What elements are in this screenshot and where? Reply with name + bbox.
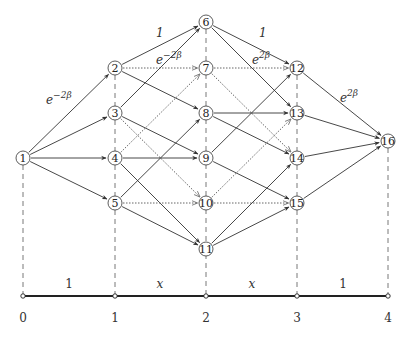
node-label: 1 (20, 152, 27, 165)
node-label: 10 (199, 197, 213, 210)
edge-4-7 (121, 74, 200, 152)
node-label: 11 (199, 243, 213, 256)
edge-15-16 (304, 146, 381, 198)
node-label: 5 (112, 197, 119, 210)
edge-weight-label: e2β (340, 88, 358, 105)
node-4: 4 (108, 151, 122, 165)
node-11: 11 (199, 242, 213, 256)
nodes: 12345678910111213141516 (16, 15, 395, 256)
edge-11-15 (213, 207, 289, 245)
node-label: 12 (290, 62, 304, 75)
lattice-diagram: 12345678910111213141516 e−2β1e−2β1e2βe2β… (0, 0, 408, 339)
edge-13-16 (305, 115, 380, 138)
node-label: 14 (290, 152, 304, 165)
axis-tick-label: 2 (202, 311, 210, 325)
node-label: 3 (112, 107, 119, 120)
edge-1-5 (30, 162, 107, 200)
node-16: 16 (381, 134, 395, 148)
node-1: 1 (16, 151, 30, 165)
node-9: 9 (199, 151, 213, 165)
diagram-svg: 12345678910111213141516 e−2β1e−2β1e2βe2β… (0, 0, 408, 339)
segment-length-label: 1 (339, 277, 347, 291)
node-label: 16 (381, 135, 395, 148)
edge-6-13 (212, 28, 291, 107)
edge-3-9 (122, 117, 198, 154)
node-13: 13 (290, 106, 304, 120)
edge-weight-label: 1 (259, 26, 267, 40)
axis-tick-2 (204, 294, 208, 298)
node-2: 2 (108, 61, 122, 75)
node-14: 14 (290, 151, 304, 165)
axis-tick-3 (295, 294, 299, 298)
edge-8-14 (213, 117, 289, 154)
segment-length-label: 1 (65, 277, 73, 291)
segment-length-label: x (157, 277, 164, 291)
axis-tick-label: 4 (384, 311, 392, 325)
axis-tick-1 (113, 294, 117, 298)
node-label: 2 (112, 62, 119, 75)
node-label: 4 (112, 152, 119, 165)
segment-length-label: x (249, 277, 256, 291)
node-3: 3 (108, 106, 122, 120)
edge-1-3 (30, 117, 107, 155)
edges (29, 26, 381, 246)
axis-tick-label: 0 (19, 311, 27, 325)
node-15: 15 (290, 196, 304, 210)
edge-9-15 (213, 162, 289, 199)
edge-5-11 (122, 207, 198, 245)
axis-tick-0 (21, 294, 25, 298)
node-label: 9 (203, 152, 210, 165)
axis-tick-label: 1 (111, 311, 119, 325)
edge-weight-label: e−2β (156, 50, 182, 67)
node-10: 10 (199, 196, 213, 210)
edge-weight-label: e−2β (46, 90, 72, 107)
node-label: 13 (290, 107, 304, 120)
edge-10-13 (212, 119, 291, 197)
node-12: 12 (290, 61, 304, 75)
node-label: 15 (290, 197, 304, 210)
edge-1-2 (29, 74, 109, 152)
axis-tick-label: 3 (293, 311, 301, 325)
axis-tick-4 (386, 294, 390, 298)
node-label: 6 (203, 16, 210, 29)
node-label: 7 (203, 62, 210, 75)
node-7: 7 (199, 61, 213, 75)
edge-weight-label: e2β (252, 50, 270, 67)
edge-11-14 (212, 164, 291, 243)
node-label: 8 (203, 107, 210, 120)
node-8: 8 (199, 106, 213, 120)
edge-weight-label: 1 (156, 26, 164, 40)
node-6: 6 (199, 15, 213, 29)
edge-2-8 (122, 72, 198, 109)
node-5: 5 (108, 196, 122, 210)
